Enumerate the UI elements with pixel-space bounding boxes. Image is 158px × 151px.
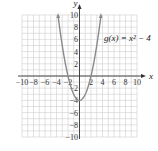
x-axis-arrow-icon (141, 74, 146, 78)
x-tick-label: −6 (41, 78, 50, 87)
x-tick-label: 4 (101, 78, 105, 87)
x-tick-label: 10 (133, 78, 141, 87)
curve-arrow-icon (56, 13, 60, 18)
y-tick-label: 10 (70, 11, 78, 20)
curve-arrow-icon (99, 13, 103, 18)
x-tick-label: 6 (112, 78, 116, 87)
y-tick-label: −6 (69, 109, 78, 118)
y-tick-label: −8 (69, 121, 78, 130)
y-tick-label: −10 (65, 133, 78, 142)
y-tick-label: 6 (74, 35, 78, 44)
x-tick-label: −4 (52, 78, 61, 87)
y-tick-label: 2 (74, 60, 78, 69)
y-axis-label: y (73, 0, 78, 8)
y-tick-label: 8 (74, 23, 78, 32)
x-tick-label: 8 (124, 78, 128, 87)
x-tick-label: −10 (16, 78, 29, 87)
y-tick-label: 4 (74, 48, 78, 57)
x-tick-label: −8 (29, 78, 38, 87)
y-axis-arrow-icon (78, 4, 82, 9)
y-tick-label: −4 (69, 96, 78, 105)
x-axis-label: x (148, 71, 153, 81)
function-label: g(x) = x² − 4 (104, 33, 151, 43)
function-graph: xy−10−8−6−4−2246810−10−8−6−4−2246810g(x)… (0, 0, 158, 151)
